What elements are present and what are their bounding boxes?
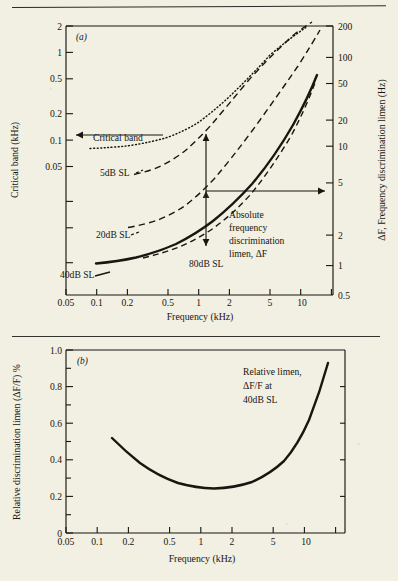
figure-svg: 2 1 0.5 0.2 0.1 0.05 Critical band (kHz)… [0,0,398,581]
scan-speck [357,443,360,445]
panel-a-axes [66,26,333,295]
panel-a-annotation-line4: limen, ΔF [229,248,267,259]
panel-b: 1.0 0.8 0.6 0.4 0.2 0 Relative discrimin… [11,345,345,566]
scan-speck [50,88,52,90]
panel-a-x-tick-label: 2 [227,297,232,308]
panel-b-x-ticks [66,527,336,533]
panel-a-left-tick-labels: 2 1 0.5 0.2 0.1 0.05 [45,21,62,173]
curve-label-5db: 5dB SL [100,167,130,178]
panel-a-right-tick-label: 2 [338,230,343,241]
panel-b-x-tick-label: 0.5 [164,536,176,547]
panel-a-right-tick-label: 5 [338,177,343,188]
panel-a-x-tick-label: 0.05 [58,297,75,308]
panel-a-right-tick-label: 50 [338,78,348,89]
panel-b-annotation: Relative limen, ΔF/F at 40dB SL [243,366,302,405]
curve-critical-band [90,28,306,149]
panel-b-x-tick-label: 0.05 [58,536,75,547]
panel-a-left-axis-title: Critical band (kHz) [9,122,21,198]
panel-a-x-tick-label: 10 [297,297,307,308]
panel-a-x-axis-title: Frequency (kHz) [167,311,234,323]
curve-relative-limen [112,363,328,489]
panel-a-annotation-line3: discrimination [229,235,285,246]
panel-a-left-tick-label: 0.05 [45,161,62,172]
scan-speck [286,523,288,525]
panel-b-y-tick-label: 0.6 [50,418,62,429]
panel-b-y-tick-labels: 1.0 0.8 0.6 0.4 0.2 0 [50,345,62,539]
panel-b-y-ticks-right [340,387,345,497]
panel-b-y-tick-label: 0.2 [50,491,62,502]
panel-a-x-tick-label: 0.5 [162,297,174,308]
panel-a-left-tick-label: 1 [57,47,62,58]
panel-a-annotation-line1: Absolute [229,209,264,220]
panel-b-annotation-line1: Relative limen, [243,366,302,377]
panel-b-y-axis-title: Relative discrimination limen (ΔF/F) % [11,364,23,520]
panel-b-x-tick-label: 2 [230,536,235,547]
panel-b-y-tick-label: 0.4 [50,454,62,465]
panel-a-right-ticks [326,26,333,266]
panel-b-y-ticks [66,350,73,533]
curve-label-80db: 80dB SL [189,258,224,269]
panel-b-x-tick-label: 0.1 [91,536,103,547]
delta-f-arrow [206,188,325,195]
panel-b-label: (b) [77,356,88,367]
panel-b-x-tick-label: 1 [198,536,203,547]
panel-a-x-ticks [66,289,331,295]
curve-label-20db: 20dB SL [96,229,131,240]
panel-b-axes [66,350,345,533]
panel-b-x-axis-title: Frequency (kHz) [169,553,236,565]
panel-a-right-tick-label: 0.5 [338,290,350,301]
panel-b-x-tick-label: 5 [271,536,276,547]
panel-b-annotation-line3: 40dB SL [243,394,278,405]
panel-b-y-tick-label: 1.0 [50,345,62,356]
panel-a-x-tick-label: 0.1 [91,297,103,308]
panel-b-x-tick-labels: 0.05 0.1 0.2 0.5 1 2 5 10 [58,536,311,547]
panel-a-x-tick-label: 1 [196,297,201,308]
panel-a-right-tick-label: 100 [338,52,353,63]
panel-a-label: (a) [76,32,87,43]
panel-a-right-tick-label: 1 [338,260,343,271]
panel-a-right-tick-label: 20 [338,115,348,126]
panel-a-left-tick-label: 0.5 [50,73,62,84]
panel-a-right-tick-labels: 200 100 50 20 10 5 2 1 0.5 [338,21,353,301]
panel-a-left-tick-label: 0.2 [50,108,62,119]
panel-a-annotation: Absolute frequency discrimination limen,… [229,209,285,259]
panel-b-annotation-line2: ΔF/F at [243,380,272,391]
panel-a-left-tick-label: 0.1 [50,135,62,146]
panel-b-x-tick-label: 0.2 [122,536,134,547]
curve-5db-sl [134,22,312,175]
curve-label-critical-band: Critical band [93,132,143,143]
panel-a-x-tick-label: 0.2 [121,297,133,308]
panel-a-right-tick-label: 10 [338,141,348,152]
panel-a-left-tick-label: 2 [57,21,62,32]
panel-a: 2 1 0.5 0.2 0.1 0.05 Critical band (kHz)… [9,21,388,324]
curve-label-40db: 40dB SL [60,269,95,280]
panel-a-x-tick-labels: 0.05 0.1 0.2 0.5 1 2 5 10 [58,297,307,308]
panel-b-y-tick-label: 0.8 [50,381,62,392]
panel-a-right-tick-label: 200 [338,21,353,32]
panel-a-annotation-line2: frequency [229,222,268,233]
panel-a-x-tick-label: 5 [268,297,273,308]
panel-b-x-tick-label: 10 [301,536,311,547]
panel-a-right-axis-title: ΔF, Frequency discrimination limen (Hz) [376,79,388,240]
figure-container: 2 1 0.5 0.2 0.1 0.05 Critical band (kHz)… [0,0,398,581]
panel-a-left-ticks [66,26,73,263]
